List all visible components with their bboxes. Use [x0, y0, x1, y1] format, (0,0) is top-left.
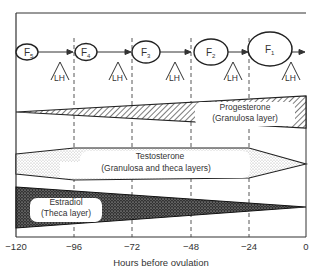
- tick-minus-24: −24: [241, 241, 257, 252]
- x-axis: −120 −96 −72 −48 −24 0 Hours before ovul…: [5, 241, 308, 268]
- follicle-hormone-diagram: F 5 F 4 F 3 F 2 F 1 LH LH LH LH LH: [0, 0, 319, 276]
- follicle-f5: F 5: [16, 44, 38, 60]
- svg-text:(Theca layer): (Theca layer): [41, 208, 91, 218]
- svg-text:LH: LH: [112, 73, 123, 83]
- follicle-f4: F 4: [75, 44, 97, 61]
- tick-minus-120: −120: [5, 241, 26, 252]
- svg-text:Estradiol: Estradiol: [49, 197, 82, 207]
- progesterone-band: Progesterone (Granulosa layer): [16, 96, 306, 128]
- tick-minus-72: −72: [124, 241, 140, 252]
- follicle-f2: F 2: [194, 39, 228, 65]
- svg-text:LH: LH: [169, 73, 180, 83]
- tick-minus-48: −48: [183, 241, 199, 252]
- estradiol-band: Estradiol (Theca layer): [16, 187, 306, 228]
- svg-text:(Granulosa layer): (Granulosa layer): [212, 113, 278, 123]
- testosterone-band: Testosterone (Granulosa and theca layers…: [16, 148, 306, 180]
- follicle-f3: F 3: [132, 41, 160, 63]
- lh-labels: LH LH LH LH LH: [54, 73, 296, 83]
- svg-text:Testosterone: Testosterone: [136, 151, 185, 161]
- svg-text:LH: LH: [285, 73, 296, 83]
- tick-minus-96: −96: [66, 241, 82, 252]
- tick-0: 0: [303, 241, 308, 252]
- follicle-f1: F 1: [248, 32, 292, 66]
- svg-text:LH: LH: [227, 73, 238, 83]
- svg-text:(Granulosa and theca layers): (Granulosa and theca layers): [101, 163, 211, 173]
- svg-text:Progesterone: Progesterone: [219, 102, 270, 112]
- x-axis-title: Hours before ovulation: [113, 257, 209, 268]
- svg-text:LH: LH: [54, 73, 65, 83]
